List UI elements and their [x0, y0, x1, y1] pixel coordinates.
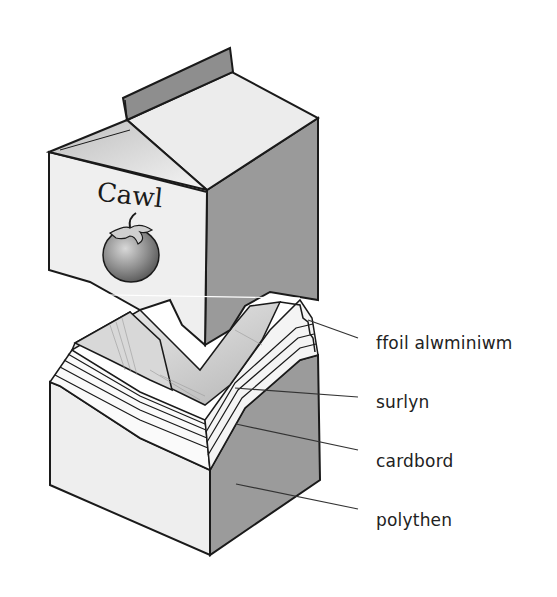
carton-top: Cawl: [49, 48, 318, 345]
label-surlyn: surlyn: [376, 392, 429, 412]
carton-diagram: Cawl: [0, 0, 557, 597]
label-foil: ffoil alwminiwm: [376, 333, 513, 353]
label-polythene: polythen: [376, 510, 452, 530]
carton-bottom-section: [50, 300, 320, 555]
label-cardboard: cardbord: [376, 451, 454, 471]
